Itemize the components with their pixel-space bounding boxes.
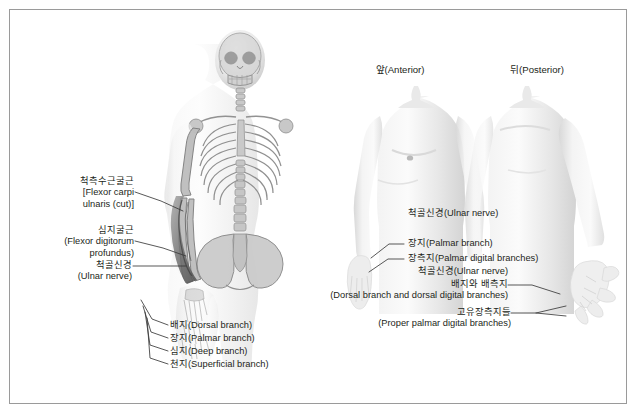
label-line: 척골신경(Ulnar nerve) (352, 266, 508, 277)
label-dorsal-branch: 배지(Dorsal branch) (170, 320, 252, 331)
label-line: [Flexor carpi (10, 187, 134, 198)
label-flexor-carpi-ulnaris: 척측수근굴근 [Flexor carpi ulnaris (cut)] (10, 176, 134, 210)
label-ulnar-nerve-left: 척골신경 (Ulnar nerve) (10, 260, 132, 283)
label-palmar-branch-right: 장지(Palmar branch) (408, 238, 493, 249)
label-line: 배지(Dorsal branch) (170, 320, 252, 331)
label-line: (Dorsal branch and dorsal digital branch… (312, 290, 508, 301)
label-line: (Flexor digitorum (6, 236, 134, 247)
panel-title-text: 뒤(Posterior) (510, 64, 564, 75)
label-line: 척측수근굴근 (10, 176, 134, 187)
label-line: 고유장측지들 (330, 307, 511, 318)
label-line: 배지와 배측지 (312, 279, 508, 290)
label-dorsal-and-dorsal-digital-branches: 배지와 배측지 (Dorsal branch and dorsal digita… (312, 279, 508, 302)
panel-title-posterior: 뒤(Posterior) (442, 64, 632, 76)
label-palmar-branch: 장지(Palmar branch) (170, 333, 255, 344)
label-line: 장지(Palmar branch) (408, 238, 493, 249)
label-line: 장측지(Palmar digital branches) (408, 253, 538, 264)
label-line: ulnaris (cut)] (10, 199, 134, 210)
label-flexor-digitorum-profundus: 심지굴근 (Flexor digitorum profundus) (6, 225, 134, 259)
label-line: profundus) (6, 248, 134, 259)
panel-title-text: 앞(Anterior) (376, 64, 425, 75)
label-line: (Ulnar nerve) (10, 271, 132, 282)
label-line: 심지(Deep branch) (170, 346, 247, 357)
label-superficial-branch: 천지(Superficial branch) (170, 359, 269, 370)
label-deep-branch: 심지(Deep branch) (170, 346, 247, 357)
anatomy-figure: 척측수근굴근 [Flexor carpi ulnaris (cut)] 심지굴근… (0, 0, 638, 419)
label-line: 장지(Palmar branch) (170, 333, 255, 344)
label-line: 심지굴근 (6, 225, 134, 236)
label-line: 척골신경 (10, 260, 132, 271)
label-ulnar-nerve-anterior: 척골신경(Ulnar nerve) (408, 208, 498, 219)
label-line: 척골신경(Ulnar nerve) (408, 208, 498, 219)
label-line: 천지(Superficial branch) (170, 359, 269, 370)
label-ulnar-nerve-posterior: 척골신경(Ulnar nerve) (352, 266, 508, 277)
label-line: (Proper palmar digital branches) (330, 318, 511, 329)
label-proper-palmar-digital-branches: 고유장측지들 (Proper palmar digital branches) (330, 307, 511, 330)
label-palmar-digital-branches: 장측지(Palmar digital branches) (408, 253, 538, 264)
